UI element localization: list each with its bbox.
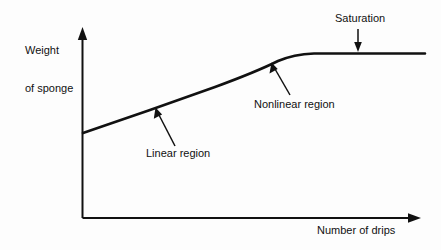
y-axis-arrowhead	[78, 27, 87, 40]
data-curve	[83, 54, 425, 134]
annotation-label-saturation: Saturation	[335, 12, 385, 25]
nonlinear-arrow	[270, 63, 291, 96]
annotation-label-linear: Linear region	[146, 147, 210, 160]
x-axis-arrowhead	[408, 213, 421, 222]
linear-arrow-shaft	[159, 115, 175, 146]
y-axis-label: Weight of sponge	[25, 19, 73, 119]
nonlinear-arrow-shaft	[275, 69, 290, 95]
x-axis-label: Number of drips	[317, 224, 395, 237]
saturation-arrow	[354, 29, 362, 52]
linear-arrow	[154, 108, 175, 147]
y-axis-label-line1: Weight	[25, 44, 73, 57]
x-axis	[83, 213, 422, 222]
annotation-label-nonlinear: Nonlinear region	[254, 98, 335, 111]
y-axis	[78, 27, 87, 218]
y-axis-label-line2: of sponge	[25, 82, 73, 95]
sponge-weight-chart: Weight of sponge Number of drips Saturat…	[0, 0, 441, 250]
saturation-arrowhead	[354, 42, 362, 52]
